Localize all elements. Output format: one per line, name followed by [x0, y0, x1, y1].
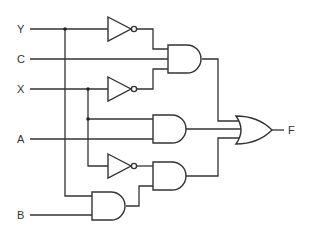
- and-gate-1: [168, 45, 201, 73]
- not-gate-3: [108, 154, 137, 178]
- input-label-b: B: [17, 209, 24, 221]
- not-gate-1: [108, 17, 137, 41]
- junction-dot: [63, 27, 67, 31]
- input-label-y: Y: [17, 23, 25, 35]
- input-label-a: A: [17, 133, 25, 145]
- junction-dot: [86, 87, 90, 91]
- and-gate-4: [92, 192, 125, 220]
- input-label-c: C: [17, 53, 25, 65]
- or-gate: [236, 116, 272, 144]
- junction-dot: [86, 117, 90, 121]
- and-gate-2: [153, 115, 186, 143]
- and-gate-3: [153, 162, 186, 190]
- output-label-f: F: [288, 124, 295, 136]
- logic-circuit-diagram: Y C X A B F: [0, 0, 314, 232]
- input-label-x: X: [17, 83, 25, 95]
- not-gate-2: [108, 77, 137, 101]
